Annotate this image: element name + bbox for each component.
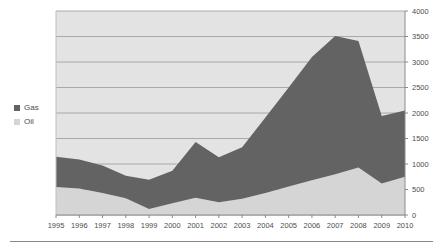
x-tick-label: 2008 (350, 221, 367, 230)
footer-divider (10, 241, 433, 242)
legend-swatch-gas (14, 105, 20, 111)
x-tick-label: 1997 (94, 221, 111, 230)
x-tick-label: 2005 (280, 221, 297, 230)
y-tick-label: 3000 (412, 58, 429, 67)
y-axis-tick-labels: 05001000150020002500300035004000 (405, 7, 429, 220)
x-tick-label: 2000 (164, 221, 181, 230)
x-axis-tick-labels: 1995199619971998199920002001200220032004… (48, 215, 414, 230)
y-tick-label: 0 (412, 211, 416, 220)
legend-label-gas: Gas (24, 103, 39, 113)
x-tick-label: 1996 (71, 221, 88, 230)
x-tick-label: 1999 (141, 221, 158, 230)
chart-legend: Gas Oil (14, 101, 60, 129)
y-tick-label: 2500 (412, 83, 429, 92)
x-tick-label: 1998 (117, 221, 134, 230)
x-tick-label: 2006 (304, 221, 321, 230)
legend-swatch-oil (14, 119, 20, 125)
stacked-area-chart: 05001000150020002500300035004000 1995199… (0, 0, 443, 249)
y-tick-label: 1000 (412, 160, 429, 169)
y-tick-label: 1500 (412, 134, 429, 143)
y-tick-label: 4000 (412, 7, 429, 16)
x-tick-label: 2003 (234, 221, 251, 230)
x-tick-label: 2001 (187, 221, 204, 230)
y-tick-label: 2000 (412, 109, 429, 118)
chart-figure: 05001000150020002500300035004000 1995199… (0, 0, 443, 249)
x-tick-label: 2007 (327, 221, 344, 230)
x-tick-label: 2002 (211, 221, 228, 230)
y-tick-label: 3500 (412, 32, 429, 41)
legend-item-gas: Gas (14, 101, 60, 114)
x-tick-label: 1995 (48, 221, 65, 230)
y-tick-label: 500 (412, 185, 425, 194)
legend-item-oil: Oil (14, 115, 60, 128)
legend-label-oil: Oil (24, 117, 34, 127)
x-tick-label: 2004 (257, 221, 274, 230)
x-tick-label: 2009 (373, 221, 390, 230)
x-tick-label: 2010 (397, 221, 414, 230)
